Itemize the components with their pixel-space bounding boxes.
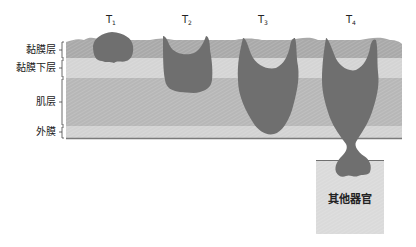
tumor-staging-diagram: 黏膜层 黏膜下层 肌层 外膜 T1 T2 T3 T4 其他器官	[0, 0, 416, 247]
other-organ-label: 其他器官	[316, 190, 384, 206]
stage-label-t1: T1	[106, 14, 116, 29]
diagram-canvas	[0, 0, 416, 247]
stage-label-t4: T4	[346, 14, 356, 29]
layer-label-mucosa: 黏膜层	[0, 44, 56, 56]
layer-brackets	[59, 42, 64, 138]
tumor-t1	[93, 32, 133, 63]
layer-label-submucosa: 黏膜下层	[0, 62, 56, 74]
layer-label-muscularis: 肌层	[0, 96, 56, 108]
stage-label-t2: T2	[182, 14, 192, 29]
layer-label-adventitia: 外膜	[0, 126, 56, 138]
stage-label-t3: T3	[258, 14, 268, 29]
